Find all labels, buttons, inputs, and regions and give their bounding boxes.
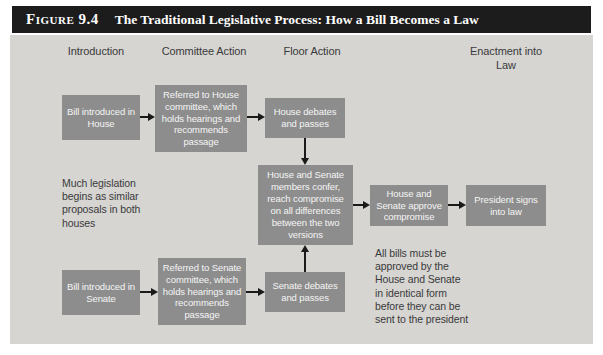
arrow-house-debates-to-conference <box>304 138 306 159</box>
annotation-much-legislation: Much legislation begins as similar propo… <box>62 177 158 230</box>
column-header-enactment-into-law: Enactment into Law <box>466 45 546 73</box>
figure-title: The Traditional Legislative Process: How… <box>115 12 479 28</box>
node-house-debates-and-passes: House debates and passes <box>265 98 345 138</box>
node-senate-debates-and-passes: Senate debates and passes <box>265 272 345 312</box>
figure-9-4: Figure 9.4 The Traditional Legislative P… <box>0 0 603 355</box>
arrow-bill-senate-to-committee <box>140 291 152 293</box>
figure-title-bar: Figure 9.4 The Traditional Legislative P… <box>12 6 591 33</box>
arrow-senate-debates-to-conference <box>304 251 306 272</box>
node-bill-introduced-in-house: Bill introduced in House <box>62 95 140 140</box>
node-referred-to-senate-committee: Referred to Senate committee, which hold… <box>158 258 246 325</box>
arrow-bill-house-to-committee <box>140 116 149 118</box>
column-header-floor-action: Floor Action <box>262 45 362 59</box>
node-approve-compromise: House and Senate approve compromise <box>370 185 448 226</box>
node-president-signs-into-law: President signs into law <box>466 185 546 226</box>
node-conference-committee: House and Senate members confer, reach c… <box>258 165 353 245</box>
flowchart-panel: Introduction Committee Action Floor Acti… <box>10 35 593 344</box>
column-header-introduction: Introduction <box>46 45 146 59</box>
arrow-house-committee-to-floor <box>247 116 259 118</box>
arrow-approve-to-president <box>448 204 460 206</box>
column-header-committee-action: Committee Action <box>154 45 254 59</box>
node-bill-introduced-in-senate: Bill introduced in Senate <box>62 270 140 315</box>
arrow-senate-committee-to-floor <box>246 291 259 293</box>
node-referred-to-house-committee: Referred to House committee, which holds… <box>155 85 247 152</box>
annotation-identical-form: All bills must be approved by the House … <box>375 247 469 326</box>
figure-number-label: Figure 9.4 <box>26 11 99 28</box>
arrow-conference-to-approve <box>353 204 364 206</box>
